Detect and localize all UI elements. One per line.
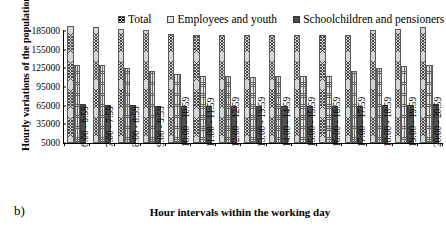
y-axis-tick-label: 155000 (32, 45, 61, 55)
x-axis-tick-label: 14:00 - 14:59 (266, 147, 291, 203)
y-axis-tick-label: 125000 (32, 63, 61, 73)
y-axis-tick-labels: 5000350006500095000125000155000185000 (0, 0, 60, 174)
y-axis-tick-label: 5000 (41, 138, 60, 148)
panel-label: b) (14, 203, 25, 219)
x-axis-title: Hour intervals within the working day (90, 206, 390, 218)
legend-swatch-schoolchildren-icon (293, 16, 300, 23)
x-axis-tick-label: 7:00 - 7:59 (89, 147, 114, 203)
legend-item-total: Total (118, 13, 151, 25)
legend-swatch-employees-icon (167, 16, 174, 23)
x-axis-tick-label: 10:00 - 10:59 (165, 147, 190, 203)
y-axis-tick-label: 65000 (36, 101, 60, 111)
y-axis-tick-mark (63, 31, 66, 32)
x-axis-tick-label: 8:00 - 8:59 (114, 147, 139, 203)
y-axis-tick-label: 35000 (36, 119, 60, 129)
x-axis-tick-labels: 6:00 - 6:597:00 - 7:598:00 - 8:599:00 - … (64, 147, 442, 203)
x-axis-tick-label: 11:00 - 11:59 (190, 147, 215, 203)
legend-item-schoolchildren-and-pensioners: Schoolchildren and pensioners (293, 13, 444, 25)
y-axis-tick-mark (63, 143, 66, 144)
x-axis-tick-label: 17:00 - 17:59 (341, 147, 366, 203)
legend-swatch-total-icon (118, 16, 125, 23)
x-axis-tick-label: 13:00 - 13:59 (240, 147, 265, 203)
y-axis-tick-label: 185000 (32, 26, 61, 36)
x-axis-tick-label: 16:00 - 16:59 (316, 147, 341, 203)
y-axis-tick-mark (63, 49, 66, 50)
y-axis-tick-mark (63, 87, 66, 88)
x-axis-tick-label: 18:00 - 18:59 (366, 147, 391, 203)
figure-panel-b: Total Employees and youth Schoolchildren… (0, 0, 446, 237)
y-axis-tick-label: 95000 (36, 82, 60, 92)
x-axis-tick-label: 6:00 - 6:59 (64, 147, 89, 203)
y-axis-tick-mark (63, 105, 66, 106)
chart-legend: Total Employees and youth Schoolchildren… (118, 11, 446, 27)
x-axis-tick-label: 9:00 - 9:59 (140, 147, 165, 203)
y-axis-tick-mark (63, 68, 66, 69)
legend-label-employees-and-youth: Employees and youth (177, 13, 277, 25)
legend-label-total: Total (128, 13, 151, 25)
x-axis-tick-label: 20:00 - 20:59 (417, 147, 442, 203)
x-axis-tick-label: 15:00 - 15:59 (291, 147, 316, 203)
x-axis-tick-label: 12:00 - 12:59 (215, 147, 240, 203)
legend-item-employees-and-youth: Employees and youth (167, 13, 277, 25)
x-axis-tick-label: 19:00 - 19:59 (392, 147, 417, 203)
y-axis-tick-mark (63, 124, 66, 125)
legend-label-schoolchildren-and-pensioners: Schoolchildren and pensioners (303, 13, 444, 25)
